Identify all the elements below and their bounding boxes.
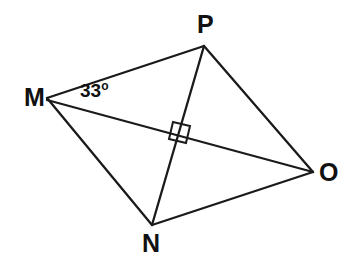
segment-nm	[47, 98, 152, 225]
vertex-label-m: M	[24, 85, 45, 110]
geometry-diagram: M P O N 33o	[0, 0, 346, 272]
vertex-label-o: O	[319, 160, 338, 185]
geometry-canvas	[0, 0, 346, 272]
diagonal-mo	[47, 100, 313, 172]
angle-label-33-degrees: 33o	[80, 80, 108, 100]
diagonal-pn	[152, 46, 204, 225]
vertex-label-p: P	[197, 12, 213, 37]
degree-symbol-icon: o	[101, 79, 108, 93]
segment-mp	[47, 46, 204, 98]
vertex-label-n: N	[142, 231, 160, 256]
angle-value: 33	[80, 80, 101, 101]
segment-po	[204, 46, 313, 172]
segment-on	[152, 172, 313, 225]
